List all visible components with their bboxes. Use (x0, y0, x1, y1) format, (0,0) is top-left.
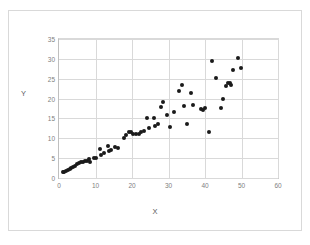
scatter-point (221, 97, 225, 101)
scatter-point (102, 151, 106, 155)
scatter-point (207, 130, 211, 134)
scatter-point (191, 103, 195, 107)
scatter-point (172, 110, 176, 114)
y-tick-label: 25 (48, 75, 55, 82)
x-tick-label: 40 (201, 182, 208, 189)
gridline-vertical (169, 39, 170, 178)
scatter-point (219, 106, 223, 110)
scatter-point (159, 105, 163, 109)
y-axis-title: Y (21, 89, 26, 98)
x-tick-label: 20 (128, 182, 135, 189)
x-tick-label: 10 (92, 182, 99, 189)
gridline-vertical (242, 39, 243, 178)
scatter-point (152, 116, 156, 120)
scatter-point (156, 122, 160, 126)
scatter-point (229, 83, 233, 87)
scatter-point (210, 59, 214, 63)
x-tick-label: 60 (274, 182, 281, 189)
scatter-point (177, 89, 181, 93)
scatter-point (124, 133, 128, 137)
scatter-point (231, 68, 235, 72)
gridline-horizontal (59, 178, 278, 179)
x-axis-title: X (9, 207, 301, 216)
scatter-point (203, 106, 207, 110)
scatter-point (109, 148, 113, 152)
scatter-point (189, 91, 193, 95)
scatter-plot-area: 051015202530350102030405060 (58, 38, 279, 179)
scatter-point (182, 104, 186, 108)
chart-frame: Y X 051015202530350102030405060 (8, 10, 302, 231)
scatter-point (94, 156, 98, 160)
scatter-point (161, 100, 165, 104)
scatter-point (236, 56, 240, 60)
y-tick-label: 20 (48, 95, 55, 102)
scatter-point (168, 125, 172, 129)
y-tick-label: 10 (48, 135, 55, 142)
y-tick-label: 5 (51, 155, 55, 162)
y-tick-label: 35 (48, 36, 55, 43)
scatter-point (180, 83, 184, 87)
scatter-point (147, 126, 151, 130)
y-tick-label: 0 (51, 175, 55, 182)
x-tick-label: 50 (238, 182, 245, 189)
scatter-point (88, 160, 92, 164)
scatter-point (239, 66, 243, 70)
scatter-point (142, 129, 146, 133)
scatter-point (145, 116, 149, 120)
scatter-point (185, 122, 189, 126)
x-tick-label: 0 (57, 182, 61, 189)
x-tick-label: 30 (165, 182, 172, 189)
scatter-point (116, 146, 120, 150)
scatter-point (98, 147, 102, 151)
y-tick-label: 30 (48, 55, 55, 62)
y-tick-label: 15 (48, 115, 55, 122)
gridline-vertical (132, 39, 133, 178)
